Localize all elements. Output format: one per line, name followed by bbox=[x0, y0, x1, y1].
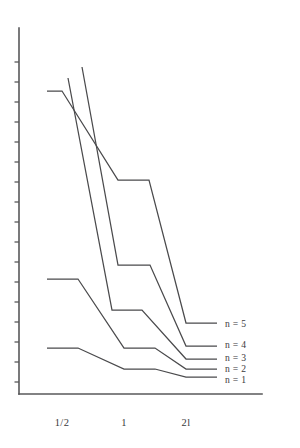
legend-label-n1: n = 1 bbox=[225, 374, 246, 385]
legend-group: n = 1n = 2n = 3n = 4n = 5 bbox=[225, 318, 246, 385]
legend-label-n5: n = 5 bbox=[225, 318, 246, 329]
series-line-n4 bbox=[82, 67, 217, 346]
legend-label-n2: n = 2 bbox=[225, 363, 246, 374]
chart-plot: n = 1n = 2n = 3n = 4n = 5 1/212l bbox=[0, 0, 300, 448]
x-tick-label-2: 2l bbox=[182, 417, 191, 428]
series-group bbox=[47, 67, 217, 377]
series-line-n3 bbox=[68, 78, 217, 359]
legend-label-n3: n = 3 bbox=[225, 352, 246, 363]
x-tick-label-0: 1/2 bbox=[55, 417, 70, 428]
figure-canvas: n = 1n = 2n = 3n = 4n = 5 1/212l bbox=[0, 0, 300, 448]
x-tick-label-1: 1 bbox=[121, 417, 127, 428]
series-line-n1 bbox=[47, 348, 217, 377]
x-tick-label-group: 1/212l bbox=[55, 417, 191, 428]
series-line-n2 bbox=[47, 279, 217, 369]
legend-label-n4: n = 4 bbox=[225, 339, 246, 350]
series-line-n5 bbox=[47, 91, 217, 323]
